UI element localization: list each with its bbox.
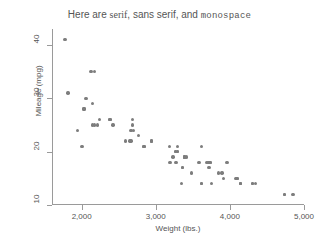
y-axis-tick — [47, 45, 52, 46]
x-axis-tick — [156, 205, 157, 210]
title-part-sans-2: , sans serif, and — [127, 9, 200, 20]
data-point — [254, 182, 257, 185]
data-point — [222, 177, 225, 180]
data-point — [93, 70, 96, 73]
data-point — [176, 145, 179, 148]
x-axis-tick — [82, 205, 83, 210]
data-point — [180, 182, 183, 185]
title-part-mono: monospace — [201, 11, 251, 21]
data-point — [235, 177, 238, 180]
x-axis-tick — [230, 205, 231, 210]
data-point — [190, 171, 193, 174]
data-point — [132, 129, 135, 132]
data-point — [220, 171, 223, 174]
data-point — [168, 145, 171, 148]
data-point — [137, 134, 140, 137]
data-point — [80, 145, 83, 148]
data-point — [176, 150, 179, 153]
data-point — [89, 70, 92, 73]
data-point — [82, 107, 85, 110]
data-point — [63, 38, 66, 41]
x-tick-label-4000: 4,000 — [207, 212, 253, 222]
x-tick-label-3000: 3,000 — [133, 212, 179, 222]
data-point — [200, 182, 203, 185]
x-axis-label: Weight (lbs.) — [52, 224, 304, 234]
data-point — [108, 118, 111, 121]
data-point — [66, 91, 69, 94]
data-point — [111, 123, 114, 126]
data-point — [181, 166, 184, 169]
data-point — [283, 193, 286, 196]
plot-area — [52, 29, 304, 205]
data-point — [171, 155, 174, 158]
x-tick-label-5000: 5,000 — [281, 212, 319, 222]
data-point — [124, 139, 127, 142]
y-axis-tick — [47, 205, 52, 206]
data-point — [96, 123, 99, 126]
x-tick-label-2000: 2,000 — [59, 212, 105, 222]
data-point — [85, 97, 88, 100]
data-point — [225, 161, 228, 164]
data-points-layer — [53, 29, 304, 204]
x-axis-tick — [304, 205, 305, 210]
data-point — [168, 161, 171, 164]
data-point — [131, 123, 134, 126]
data-point — [208, 161, 211, 164]
y-axis-tick — [47, 152, 52, 153]
scatter-plot-figure: Here are serif, sans serif, and monospac… — [0, 0, 319, 244]
y-tick-label-10: 10 — [26, 200, 47, 210]
data-point — [210, 182, 213, 185]
data-point — [142, 145, 145, 148]
data-point — [239, 182, 242, 185]
chart-title: Here are serif, sans serif, and monospac… — [0, 9, 319, 22]
y-tick-label-20: 20 — [26, 147, 47, 157]
y-axis-label: Mileage (mpg) — [34, 46, 44, 136]
data-point — [150, 139, 153, 142]
data-point — [200, 145, 203, 148]
title-part-serif: serif — [110, 9, 128, 20]
title-part-sans-1: Here are — [68, 9, 110, 20]
data-point — [174, 161, 177, 164]
y-axis-tick — [47, 98, 52, 99]
data-point — [185, 155, 188, 158]
data-point — [98, 118, 101, 121]
data-point — [291, 193, 294, 196]
data-point — [76, 129, 79, 132]
data-point — [129, 139, 132, 142]
data-point — [197, 161, 200, 164]
data-point — [131, 118, 134, 121]
data-point — [208, 166, 211, 169]
data-point — [91, 102, 94, 105]
